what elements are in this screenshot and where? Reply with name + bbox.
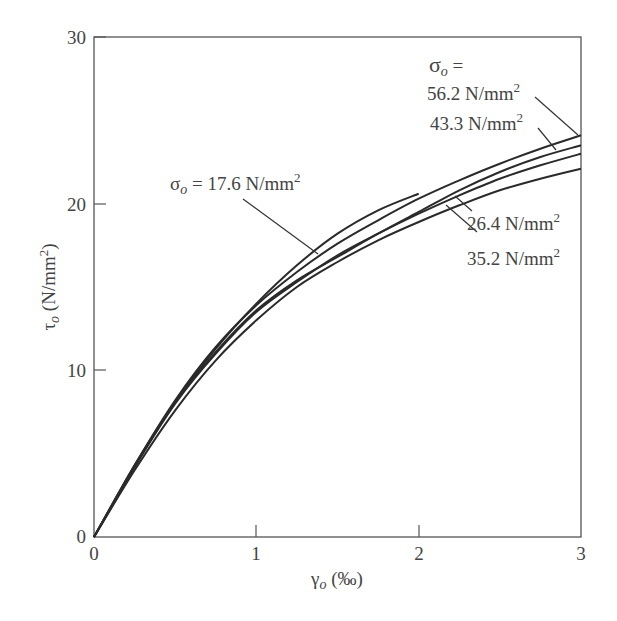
x-axis: 0 1 2 3	[89, 525, 586, 564]
plot-frame	[94, 37, 581, 537]
leader-26-4	[455, 196, 472, 211]
leader-17-6	[243, 199, 318, 254]
label-sigma-56-2: 56.2 N/mm2	[427, 80, 520, 104]
y-tick-20: 20	[67, 194, 86, 215]
y-tick-10: 10	[67, 360, 86, 381]
x-axis-title: γo (‰)	[310, 568, 363, 592]
label-sigma-35-2: 35.2 N/mm2	[467, 245, 560, 269]
label-sigma-header: σo =	[429, 52, 463, 79]
label-sigma-43-3: 43.3 N/mm2	[430, 110, 523, 134]
y-axis: 30 20 10 0	[67, 27, 106, 547]
x-tick-1: 1	[251, 543, 261, 564]
y-tick-30: 30	[67, 27, 86, 48]
x-tick-2: 2	[414, 543, 424, 564]
x-tick-0: 0	[89, 543, 99, 564]
data-curves	[94, 135, 581, 537]
x-tick-3: 3	[576, 543, 586, 564]
curve-series-4	[94, 135, 581, 537]
y-tick-0: 0	[77, 526, 87, 547]
curve-series-3	[94, 145, 581, 537]
label-sigma-26-4: 26.4 N/mm2	[467, 210, 560, 234]
label-sigma-17-6: σo = 17.6 N/mm2	[170, 170, 301, 197]
leader-56-2	[535, 97, 578, 135]
y-axis-title: τo (N/mm2)	[36, 243, 62, 330]
curve-series-1	[94, 154, 581, 537]
chart-canvas: 30 20 10 0 0 1 2 3 γo (‰) τo (N/mm2) σo …	[0, 0, 617, 621]
